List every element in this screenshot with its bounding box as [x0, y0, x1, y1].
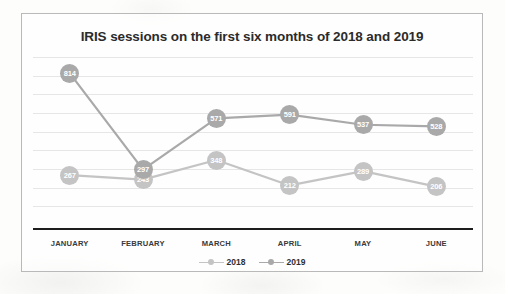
data-point-label: 528 [427, 117, 446, 136]
series-line-2018 [70, 160, 437, 187]
legend-swatch-2019 [259, 258, 284, 267]
data-point-label: 267 [60, 166, 79, 185]
data-point-label: 537 [354, 115, 373, 134]
data-point-label: 289 [354, 162, 373, 181]
x-axis-baseline [33, 228, 473, 230]
legend-label-2018: 2018 [227, 257, 246, 267]
plot-area: 267243348212289206814297571591537528 [33, 57, 473, 225]
data-point-label: 297 [134, 160, 153, 179]
legend-item-2018[interactable]: 2018 [199, 257, 246, 267]
x-axis-label-march: MARCH [202, 239, 231, 248]
data-point-label: 571 [207, 109, 226, 128]
series-line-2019 [70, 73, 437, 170]
data-point-label: 206 [427, 177, 446, 196]
legend-item-2019[interactable]: 2019 [259, 257, 306, 267]
x-axis-label-june: JUNE [426, 239, 447, 248]
legend-swatch-2018 [199, 258, 224, 267]
x-axis-label-april: APRIL [278, 239, 302, 248]
chart-title: IRIS sessions on the first six months of… [22, 29, 482, 44]
chart-legend: 20182019 [22, 257, 482, 267]
x-axis-label-february: FEBRUARY [121, 239, 165, 248]
x-axis-category-labels: JANUARYFEBRUARYMARCHAPRILMAYJUNE [33, 239, 473, 255]
data-point-label: 212 [280, 176, 299, 195]
x-axis-label-january: JANUARY [51, 239, 89, 248]
data-point-label: 348 [207, 151, 226, 170]
chart-frame: IRIS sessions on the first six months of… [21, 13, 483, 272]
data-point-label: 814 [60, 64, 79, 83]
series-lines [33, 57, 473, 225]
legend-label-2019: 2019 [287, 257, 306, 267]
x-axis-label-may: MAY [355, 239, 372, 248]
